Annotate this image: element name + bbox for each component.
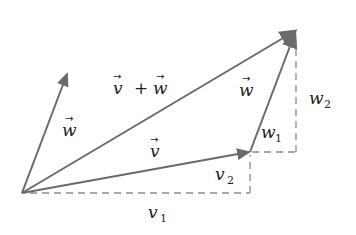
vector-w-from-origin bbox=[22, 74, 67, 193]
v2-label-sub: 2 bbox=[227, 174, 234, 187]
w1-label-sub: 1 bbox=[275, 132, 282, 145]
v1-label-base: v bbox=[148, 202, 158, 222]
v2-label-base: v bbox=[215, 164, 225, 184]
vector-arrow-accent-icon: → bbox=[65, 113, 73, 124]
vector-arrow-accent-icon: → bbox=[150, 134, 158, 145]
v1-label-sub: 1 bbox=[160, 212, 167, 225]
labels: v → + w → w → v → w → w 1 w 2 bbox=[62, 71, 331, 225]
vector-addition-diagram: v → + w → w → v → w → w 1 w 2 bbox=[0, 0, 356, 235]
w-label-left: w → bbox=[62, 113, 77, 140]
w2-label: w 2 bbox=[309, 88, 331, 111]
vector-arrow-accent-icon: → bbox=[242, 73, 250, 84]
v-label: v → bbox=[150, 134, 160, 161]
vectors bbox=[22, 31, 295, 193]
w2-label-sub: 2 bbox=[324, 98, 331, 111]
vector-arrow-accent-icon: → bbox=[113, 71, 121, 82]
vector-arrow-accent-icon: → bbox=[156, 71, 164, 82]
w1-label: w 1 bbox=[261, 122, 282, 145]
v2-label: v 2 bbox=[215, 164, 234, 187]
sum-label: v → + w → bbox=[113, 71, 168, 98]
w1-label-base: w bbox=[261, 122, 276, 142]
v1-label: v 1 bbox=[148, 202, 167, 225]
w2-label-base: w bbox=[309, 88, 324, 108]
w-label-right: w → bbox=[239, 73, 254, 100]
sum-label-plus: + bbox=[134, 78, 148, 98]
